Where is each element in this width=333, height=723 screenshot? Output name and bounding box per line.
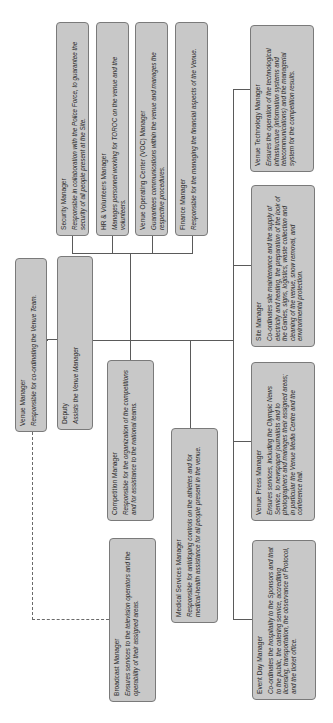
node-title: Medical Services Manager [175, 434, 183, 617]
node-site-manager: Site Manager Co-ordinates site maintenan… [251, 185, 315, 347]
node-desc: Responsible for the organization of the … [122, 366, 137, 515]
node-voc-manager: Venue Operating Center (VOC) Manager Gua… [135, 22, 168, 236]
node-title: Finance Manager [179, 28, 187, 230]
node-title: HR & Volunteers Manager [100, 28, 108, 230]
org-chart: Venue Manager Responsible for co-ordinat… [0, 0, 333, 723]
node-competition-manager: Competition Manager Responsible for the … [107, 360, 154, 521]
top-group-bus [72, 253, 193, 254]
node-title: Deputy [61, 262, 69, 424]
node-title: Security Manager [60, 28, 68, 230]
node-title: Event Day Manager [256, 546, 264, 694]
node-broadcast-manager: Broadcast Manager Ensures services to th… [109, 538, 156, 702]
node-desc: Ensures the operation of the technologic… [265, 31, 295, 166]
connector [190, 340, 233, 341]
connector-competition [130, 341, 131, 360]
node-desc: Ensures services, including the Olympic … [266, 368, 304, 515]
connector [152, 236, 153, 254]
node-desc: Responsible for the managing the financi… [190, 28, 198, 230]
connector [47, 340, 48, 341]
node-desc: Co-ordinates site maintenance and the su… [266, 191, 304, 341]
connector [112, 236, 113, 254]
connector [192, 236, 193, 254]
connector-top-group [130, 254, 131, 341]
node-desc: Assists the Venue Manager [72, 262, 80, 424]
node-title: Competition Manager [111, 366, 119, 515]
connector [233, 265, 251, 266]
connector [233, 441, 251, 442]
node-desc: Co-ordinates the hospitality to the Spon… [267, 546, 297, 694]
node-title: Broadcast Manager [113, 544, 121, 696]
node-desc: Guarantees communications within the ven… [150, 28, 165, 230]
node-title: Venue Operating Center (VOC) Manager [139, 28, 147, 230]
node-deputy: Deputy Assists the Venue Manager [57, 256, 93, 430]
connector [130, 340, 190, 341]
connector-medical [190, 341, 191, 428]
node-title: Site Manager [255, 191, 263, 341]
dashed-connector [32, 619, 109, 620]
node-security-manager: Security Manager Responsible in collabor… [56, 22, 89, 236]
node-venue-technology-manager: Venue Technology Manager Ensures the ope… [250, 25, 314, 172]
node-title: Venue Technology Manager [254, 31, 262, 166]
connector [72, 236, 73, 254]
node-title: Venue Press Manager [255, 368, 263, 515]
dashed-connector [32, 432, 33, 620]
node-desc: Ensures services to the television opera… [124, 544, 139, 696]
right-bus [233, 90, 234, 620]
node-venue-manager: Venue Manager Responsible for co-ordinat… [15, 258, 47, 432]
node-desc: Manages personnel working for TOROC on t… [111, 28, 126, 230]
node-title: Venue Manager [19, 264, 27, 426]
connector [233, 89, 250, 90]
connector [233, 619, 252, 620]
node-medical-services-manager: Medical Services Manager Responsible for… [171, 428, 218, 623]
node-desc: Responsible for antidoping controls on t… [186, 434, 201, 617]
node-hr-volunteers-manager: HR & Volunteers Manager Manages personne… [96, 22, 129, 236]
node-event-day-manager: Event Day Manager Co-ordinates the hospi… [252, 540, 316, 700]
node-desc: Responsible for co-ordinating the Venue … [30, 264, 38, 426]
node-desc: Responsible in collaboration with the Po… [71, 28, 86, 230]
connector [47, 339, 57, 340]
node-venue-press-manager: Venue Press Manager Ensures services, in… [251, 362, 315, 521]
node-finance-manager: Finance Manager Responsible for the mana… [175, 22, 208, 236]
